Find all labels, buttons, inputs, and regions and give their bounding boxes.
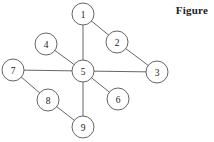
figure-container: 123456789 Figure [0, 0, 214, 142]
graph-node-5[interactable]: 5 [72, 60, 94, 82]
graph-node-2[interactable]: 2 [106, 31, 128, 53]
graph-edge-5-4 [55, 50, 74, 64]
graph-edge-1-2 [91, 21, 108, 35]
figure-caption: Figure [176, 4, 208, 16]
graph-node-label-8: 8 [46, 96, 51, 106]
graph-diagram: 123456789 [0, 0, 214, 142]
graph-edge-2-3 [126, 49, 148, 66]
graph-edge-5-3 [94, 71, 146, 72]
graph-edge-5-7 [24, 70, 72, 71]
graph-node-1[interactable]: 1 [72, 3, 94, 25]
graph-node-9[interactable]: 9 [72, 116, 94, 138]
graph-node-label-9: 9 [81, 123, 86, 133]
graph-node-label-7: 7 [11, 66, 16, 76]
graph-node-6[interactable]: 6 [107, 88, 129, 110]
graph-node-7[interactable]: 7 [2, 59, 24, 81]
graph-node-label-5: 5 [81, 67, 86, 77]
graph-node-4[interactable]: 4 [35, 33, 57, 55]
graph-node-label-1: 1 [81, 10, 86, 20]
graph-node-label-2: 2 [115, 38, 120, 48]
graph-node-8[interactable]: 8 [37, 89, 59, 111]
graph-node-label-4: 4 [44, 40, 49, 50]
graph-edge-7-8 [21, 77, 39, 93]
graph-node-label-3: 3 [155, 68, 160, 78]
graph-node-3[interactable]: 3 [146, 61, 168, 83]
graph-node-label-6: 6 [116, 95, 121, 105]
graph-edge-8-9 [57, 107, 75, 121]
graph-edge-5-6 [92, 78, 110, 92]
